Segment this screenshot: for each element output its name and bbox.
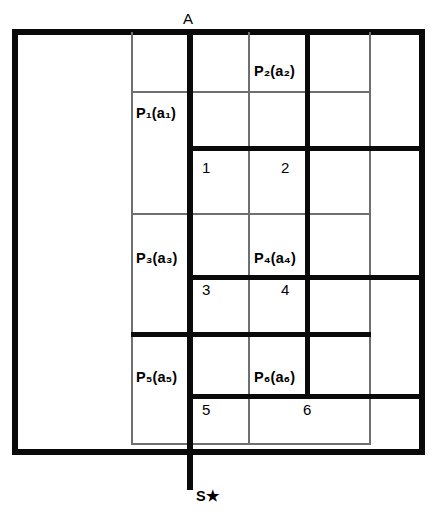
branch-hline-2	[190, 275, 425, 280]
process-label-p2: P₂(a₂)	[254, 64, 295, 79]
process-label-p1: P₁(a₁)	[136, 106, 176, 121]
outer-box-bottom	[12, 449, 425, 455]
outer-box-left	[12, 29, 18, 455]
grid-vline-left	[131, 32, 133, 444]
process-label-p3: P₃(a₃)	[136, 251, 177, 266]
process-label-p6: P₆(a₆)	[254, 370, 295, 385]
grid-hline-r3	[131, 443, 371, 445]
cell-number-5: 5	[202, 402, 210, 417]
cell-number-3: 3	[202, 282, 210, 297]
node-s-label: S★	[196, 489, 220, 504]
process-label-p4: P₄(a₄)	[254, 251, 296, 266]
trunk-line-a	[187, 29, 193, 490]
cell-number-4: 4	[281, 282, 289, 297]
branch-line-right	[305, 32, 310, 396]
cell-number-6: 6	[303, 402, 311, 417]
process-label-p5-text: P₅(a₅)	[136, 369, 177, 385]
process-label-p1-text: P₁(a₁)	[136, 105, 176, 121]
node-a-label: A	[183, 11, 193, 26]
branch-hline-1	[190, 146, 425, 151]
outer-box-right	[419, 29, 425, 455]
process-label-p5: P₅(a₅)	[136, 370, 177, 385]
grid-vline-right	[369, 32, 371, 444]
cell-number-1: 1	[202, 160, 210, 175]
process-label-p6-text: P₆(a₆)	[254, 369, 295, 385]
grid-vline-mid	[248, 32, 250, 444]
grid-hline-r2	[131, 213, 371, 215]
process-label-p2-text: P₂(a₂)	[254, 63, 295, 79]
process-label-p4-text: P₄(a₄)	[254, 250, 296, 266]
branch-hline-4	[190, 394, 425, 399]
cell-number-2: 2	[281, 160, 289, 175]
branch-hline-3	[131, 332, 371, 337]
timing-grid-diagram: A S★ P₁(a₁) P₂(a₂) P₃(a₃) P₄(a₄) P₅(a₅) …	[0, 0, 437, 518]
outer-box-top	[12, 29, 425, 35]
process-label-p3-text: P₃(a₃)	[136, 250, 177, 266]
grid-hline-r1	[131, 91, 371, 93]
